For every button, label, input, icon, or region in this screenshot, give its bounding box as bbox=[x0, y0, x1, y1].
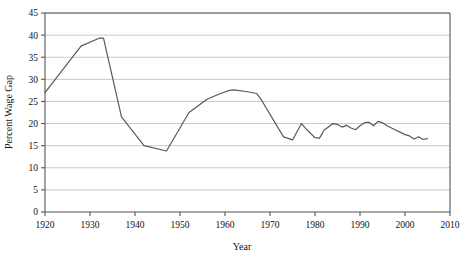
chart-background bbox=[0, 0, 470, 257]
x-axis-tick-label: 1940 bbox=[126, 220, 145, 230]
y-axis-tick-label: 5 bbox=[33, 185, 38, 195]
x-axis-tick-label: 1980 bbox=[306, 220, 325, 230]
x-axis-tick-label: 2010 bbox=[441, 220, 460, 230]
x-axis-tick-label: 1990 bbox=[351, 220, 370, 230]
y-axis-tick-label: 35 bbox=[29, 53, 39, 63]
wage-gap-line-chart-figure: 1920193019401950196019701980199020002010… bbox=[0, 0, 470, 257]
x-axis-tick-label: 1930 bbox=[81, 220, 100, 230]
x-axis-tick-label: 2000 bbox=[396, 220, 415, 230]
y-axis-tick-label: 25 bbox=[29, 97, 39, 107]
y-axis-tick-label: 0 bbox=[33, 207, 38, 217]
y-axis-tick-label: 30 bbox=[29, 75, 39, 85]
y-axis-tick-label: 10 bbox=[29, 163, 39, 173]
chart-canvas: 1920193019401950196019701980199020002010… bbox=[0, 0, 470, 257]
y-axis-tick-label: 40 bbox=[29, 31, 39, 41]
y-axis-title: Percent Wage Gap bbox=[3, 75, 14, 149]
x-axis-tick-label: 1970 bbox=[261, 220, 280, 230]
y-axis-tick-label: 20 bbox=[29, 119, 39, 129]
y-axis-tick-label: 45 bbox=[29, 8, 39, 18]
x-axis-tick-label: 1950 bbox=[171, 220, 190, 230]
x-axis-tick-label: 1920 bbox=[36, 220, 55, 230]
x-axis-title: Year bbox=[233, 241, 252, 252]
x-axis-tick-label: 1960 bbox=[216, 220, 235, 230]
y-axis-tick-label: 15 bbox=[29, 141, 39, 151]
